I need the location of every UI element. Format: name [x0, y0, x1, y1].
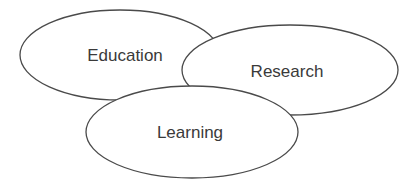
education-label: Education: [87, 46, 163, 65]
research-label: Research: [251, 62, 324, 81]
diagram-canvas: Education Research Learning: [0, 0, 411, 187]
learning-label: Learning: [157, 123, 223, 142]
ellipse-learning: Learning: [86, 86, 298, 178]
